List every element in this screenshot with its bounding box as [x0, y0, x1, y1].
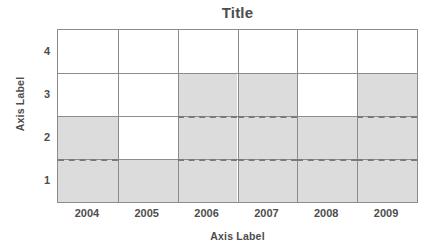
- x-tick-label-2009: 2009: [356, 206, 416, 220]
- x-axis-tick-labels: 200420052006200720082009: [57, 206, 418, 224]
- x-tick-label-2005: 2005: [117, 206, 177, 220]
- dashed-line-1.5-2006: [178, 159, 238, 161]
- y-tick-label-3: 3: [28, 88, 50, 100]
- y-axis-label: Axis Label: [14, 54, 26, 154]
- bar-2005: [118, 159, 178, 202]
- chart-title: Title: [57, 4, 418, 22]
- dashed-line-2.5-2009: [357, 116, 417, 118]
- dashed-line-1.5-2004: [58, 159, 118, 161]
- bar-2007: [238, 73, 298, 202]
- x-axis-label: Axis Label: [57, 230, 418, 242]
- bar-2009: [357, 73, 417, 202]
- y-axis-tick-labels: 1234: [28, 0, 50, 252]
- dashed-line-1.5-2008: [297, 159, 357, 161]
- y-tick-label-2: 2: [28, 131, 50, 143]
- dashed-line-2.5-2007: [238, 116, 298, 118]
- y-tick-label-4: 4: [28, 45, 50, 57]
- bar-2006: [178, 73, 238, 202]
- y-tick-label-1: 1: [28, 174, 50, 186]
- gridline-x-1: [118, 30, 119, 202]
- dashed-line-1.5-2007: [238, 159, 298, 161]
- dashed-line-1.5-2009: [357, 159, 417, 161]
- x-tick-label-2008: 2008: [296, 206, 356, 220]
- plot-area: [57, 29, 418, 203]
- dashed-line-2.5-2006: [178, 116, 238, 118]
- x-tick-label-2006: 2006: [177, 206, 237, 220]
- x-tick-label-2004: 2004: [57, 206, 117, 220]
- x-tick-label-2007: 2007: [237, 206, 297, 220]
- chart-container: Title Axis Label 1234 200420052006200720…: [0, 0, 433, 252]
